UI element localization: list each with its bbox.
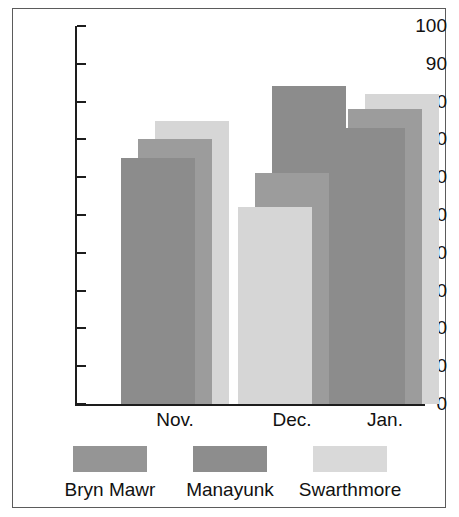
legend-swatch-swarthmore — [313, 446, 387, 472]
bar-bryn-mawr-jan — [331, 128, 405, 404]
legend-item-manayunk[interactable]: Manayunk — [165, 446, 295, 501]
chart-legend: Bryn MawrManayunkSwarthmore — [13, 446, 447, 506]
legend-swatch-bryn-mawr — [73, 446, 147, 472]
legend-item-swarthmore[interactable]: Swarthmore — [285, 446, 415, 501]
x-axis-label-nov: Nov. — [120, 409, 230, 431]
legend-label: Manayunk — [165, 479, 295, 501]
legend-swatch-manayunk — [193, 446, 267, 472]
bar-bryn-mawr-dec — [238, 207, 312, 404]
bar-chart-plot-area: 1009080706050403020100 Nov.Dec.Jan. — [13, 9, 447, 509]
bars-layer — [13, 9, 447, 509]
bar-bryn-mawr-nov — [121, 158, 195, 404]
legend-item-bryn-mawr[interactable]: Bryn Mawr — [45, 446, 175, 501]
x-axis-label-jan: Jan. — [330, 409, 440, 431]
legend-label: Bryn Mawr — [45, 479, 175, 501]
chart-frame: 1009080706050403020100 Nov.Dec.Jan. Bryn… — [12, 8, 446, 508]
legend-label: Swarthmore — [285, 479, 415, 501]
